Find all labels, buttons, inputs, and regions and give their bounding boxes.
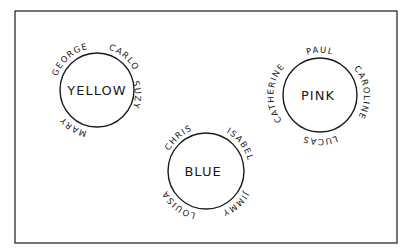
member-caroline: CAROLINE: [352, 63, 372, 121]
member-lucas: LUCAS: [301, 134, 339, 147]
member-suzy: SUZY: [131, 80, 143, 111]
group-label-pink: PINK: [301, 88, 335, 103]
member-paul: PAUL: [305, 45, 335, 57]
group-pink: PINK PAUL CAROLINE CATHERINE LUCAS: [265, 45, 372, 147]
diagram-canvas: YELLOW GEORGE CARLO SUZY MARY PINK PAUL …: [0, 0, 407, 252]
group-label-blue: BLUE: [184, 164, 221, 179]
member-george: GEORGE: [50, 41, 89, 77]
group-blue: BLUE CHRIS ISABEL JIMMY LOUISA: [160, 123, 256, 221]
group-yellow: YELLOW GEORGE CARLO SUZY MARY: [50, 41, 143, 139]
group-label-yellow: YELLOW: [66, 83, 126, 98]
member-louisa: LOUISA: [160, 189, 197, 221]
